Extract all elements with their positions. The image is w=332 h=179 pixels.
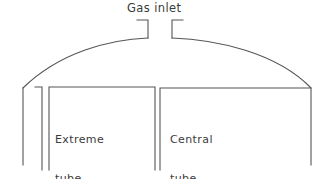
extreme-tube-label-line1: Extreme	[55, 133, 104, 146]
central-tube-label-line2: tube	[170, 172, 213, 179]
gas-inlet-label: Gas inlet	[127, 2, 181, 15]
extreme-tube-label: Extreme tube	[55, 107, 104, 179]
gas-reactor-diagram: Gas inlet Extreme tube Central tube	[0, 0, 332, 179]
gas-inlet-left-stub	[137, 20, 148, 38]
inner-partition-left	[35, 87, 42, 170]
central-tube-label-line1: Central	[170, 133, 213, 146]
vessel-cross-section-drawing	[0, 0, 332, 179]
extreme-tube-label-line2: tube	[55, 172, 104, 179]
vessel-dome-left	[23, 38, 148, 88]
vessel-dome-right	[172, 38, 311, 88]
central-tube-label: Central tube	[170, 107, 213, 179]
gas-inlet-right-stub	[172, 20, 183, 38]
